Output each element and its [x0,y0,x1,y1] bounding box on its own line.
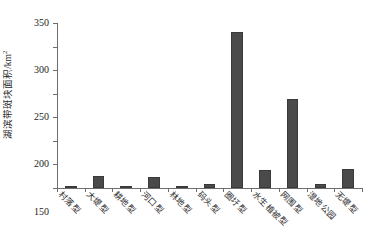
x-axis-labels: 村落型大堤型耕地型河口型林地型码头型圈圩型水生植被型网围型湿地公园无堤型 [57,190,377,245]
y-tick-label: 250 [34,112,49,122]
x-axis-category-label: 村落型 [57,190,82,215]
y-tick-label: 350 [34,18,49,28]
x-axis-category-label: 圈圩型 [223,190,248,215]
y-tick-label: 200 [34,159,49,169]
x-axis-category-label: 码头型 [195,190,220,215]
x-axis-category-label: 湿地公园 [306,190,337,221]
bar [148,177,160,188]
y-axis-title: 湖滨带斑块面积/km2 [0,0,16,190]
plot-area: 050100150200250300350 [57,23,362,188]
y-axis-unit-superscript: 2 [1,51,8,54]
bars-layer [57,23,362,188]
bar [120,186,132,188]
bar-chart: 湖滨带斑块面积/km2 050100150200250300350 村落型大堤型… [0,0,377,245]
bar [231,32,243,188]
x-axis-category-label: 林地型 [168,190,193,215]
bar [93,176,105,188]
y-tick-label: 150 [34,207,49,217]
bar [342,169,354,188]
bar [259,170,271,188]
x-axis-category-label: 网围型 [279,190,304,215]
y-axis-title-text: 湖滨带斑块面积/km2 [2,51,14,139]
bar [204,184,216,188]
x-axis-category-label: 耕地型 [112,190,137,215]
x-axis-line [57,188,362,189]
x-axis-category-label: 河口型 [140,190,165,215]
x-axis-category-label: 大堤型 [85,190,110,215]
x-axis-category-label: 无堤型 [334,190,359,215]
bar [65,186,77,188]
bar [176,186,188,188]
bar [315,184,327,188]
y-tick-label: 300 [34,65,49,75]
bar [287,99,299,188]
